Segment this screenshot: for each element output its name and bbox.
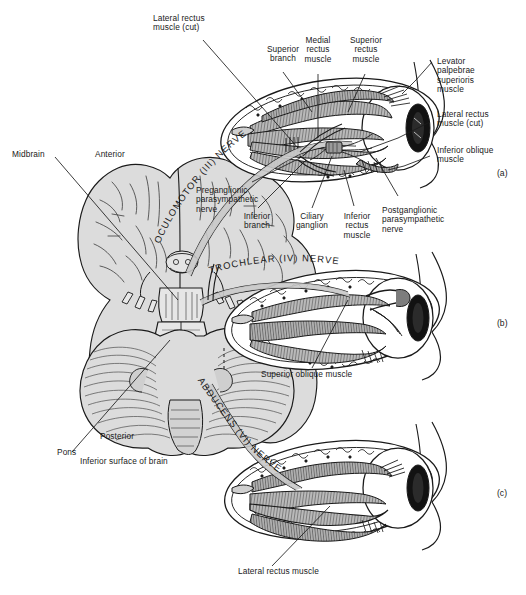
label-preganglionic-parasympathetic-nerve: Preganglionic parasympathetic nerve	[196, 186, 258, 214]
label-levator-palpebrae-superioris-muscle: Levator palpebrae superioris muscle	[437, 57, 475, 95]
panel-label-a: (a)	[497, 168, 508, 178]
panel-label-b: (b)	[497, 318, 508, 328]
label-midbrain: Midbrain	[12, 150, 45, 159]
label-lateral-rectus-cut-top: Lateral rectus muscle (cut)	[153, 14, 205, 33]
label-inferior-surface-of-brain: Inferior surface of brain	[80, 457, 168, 466]
anatomy-figure-cranial-nerves-eye: OCULOMOTOR (III) NERVE TROCHLEAR (IV) NE…	[0, 0, 526, 595]
label-lateral-rectus-cut-right: Lateral rectus muscle (cut)	[437, 110, 489, 129]
label-medial-rectus-muscle: Medial rectus muscle	[294, 36, 342, 64]
label-lateral-rectus-muscle-bottom: Lateral rectus muscle	[238, 567, 319, 576]
label-anterior: Anterior	[95, 150, 125, 159]
label-posterior: Posterior	[100, 432, 134, 441]
label-ciliary-ganglion: Ciliary ganglion	[288, 212, 336, 231]
label-postganglionic-parasympathetic-nerve: Postganglionic parasympathetic nerve	[382, 206, 444, 234]
label-inferior-oblique-muscle: Inferior oblique muscle	[437, 146, 494, 165]
panel-label-c: (c)	[497, 488, 507, 498]
label-inferior-branch: Inferior branch	[232, 212, 282, 231]
label-superior-rectus-muscle: Superior rectus muscle	[342, 36, 390, 64]
label-pons: Pons	[57, 448, 76, 457]
label-inferior-rectus-muscle: Inferior rectus muscle	[336, 212, 378, 240]
label-superior-oblique-muscle: Superior oblique muscle	[261, 370, 352, 379]
